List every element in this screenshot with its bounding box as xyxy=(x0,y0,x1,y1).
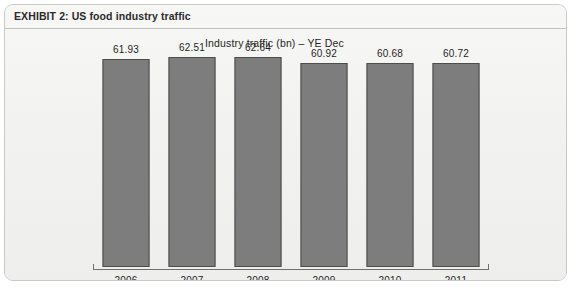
bar-group: 60.68 xyxy=(357,55,423,267)
plot-area: 61.9362.5162.6460.9260.6860.72 xyxy=(93,55,489,267)
bar xyxy=(432,63,479,267)
x-axis-right-cap xyxy=(488,264,489,270)
bar xyxy=(366,63,413,267)
bar xyxy=(168,57,215,267)
x-axis-tick-label: 2011 xyxy=(445,275,467,281)
bar xyxy=(234,57,281,267)
chart-area: Industry traffic (bn) – YE Dec 61.9362.5… xyxy=(5,29,567,281)
bar-value-label: 60.92 xyxy=(311,48,337,59)
bar-group: 60.72 xyxy=(423,55,489,267)
bar-group: 62.51 xyxy=(159,55,225,267)
bar-value-label: 60.68 xyxy=(377,48,403,59)
x-axis-tick-label: 2006 xyxy=(114,275,137,281)
x-axis-tick-label: 2008 xyxy=(246,275,269,281)
bar xyxy=(102,59,149,267)
x-axis-tick-label: 2010 xyxy=(378,275,401,281)
bar xyxy=(300,63,347,267)
exhibit-header: EXHIBIT 2: US food industry traffic xyxy=(5,5,566,29)
chart-title: Industry traffic (bn) – YE Dec xyxy=(4,37,556,49)
bar-value-label: 62.64 xyxy=(245,42,271,53)
x-axis-labels: 200620072008200920102011 xyxy=(93,275,489,281)
bar-value-label: 62.51 xyxy=(179,42,205,53)
bar-group: 62.64 xyxy=(225,55,291,267)
x-axis-tick-label: 2007 xyxy=(180,275,203,281)
bar-value-label: 61.93 xyxy=(113,44,139,55)
bar-group: 60.92 xyxy=(291,55,357,267)
bar-group: 61.93 xyxy=(93,55,159,267)
exhibit-panel: EXHIBIT 2: US food industry traffic Indu… xyxy=(4,4,567,281)
x-axis-left-cap xyxy=(93,264,94,270)
bar-value-label: 60.72 xyxy=(443,48,469,59)
x-axis-tick-label: 2009 xyxy=(312,275,335,281)
bar-series: 61.9362.5162.6460.9260.6860.72 xyxy=(93,55,489,267)
x-axis-line xyxy=(93,269,489,270)
exhibit-title: EXHIBIT 2: US food industry traffic xyxy=(14,10,191,22)
